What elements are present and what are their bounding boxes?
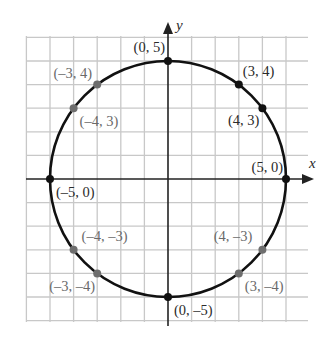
point-label-p-m5-0: (–5, 0) (56, 184, 95, 201)
point-marker-p-m3-4 (93, 81, 101, 89)
point-label-p-0-m5: (0, –5) (174, 302, 213, 319)
point-marker-p-5-0 (282, 175, 290, 183)
point-marker-p-3-m4 (235, 269, 243, 277)
point-marker-p-4-m3 (258, 246, 266, 254)
point-label-p-4-m3: (4, –3) (214, 228, 253, 245)
point-label-p-4-3: (4, 3) (228, 112, 260, 129)
point-marker-p-4-3 (258, 104, 266, 112)
plot-area: x y (0, 5)(3, 4)(4, 3)(5, 0)(–5, 0)(0, –… (0, 0, 332, 344)
point-label-p-5-0: (5, 0) (252, 159, 284, 176)
y-axis-arrow-icon (163, 22, 173, 34)
point-marker-p-m3-m4 (93, 269, 101, 277)
point-marker-p-m5-0 (46, 175, 54, 183)
point-marker-p-m4-m3 (70, 246, 78, 254)
point-marker-p-0-m5 (164, 293, 172, 301)
point-label-p-3-m4: (3, –4) (245, 278, 284, 295)
point-label-p-3-4: (3, 4) (243, 63, 275, 80)
unit-circle-diagram: x y (0, 5)(3, 4)(4, 3)(5, 0)(–5, 0)(0, –… (0, 0, 332, 344)
point-label-p-m3-4: (–3, 4) (54, 65, 93, 82)
point-label-p-0-5: (0, 5) (134, 39, 166, 56)
point-marker-p-m4-3 (70, 104, 78, 112)
x-axis-arrow-icon (302, 174, 314, 184)
y-axis-label: y (174, 17, 183, 33)
point-marker-p-0-5 (164, 57, 172, 65)
point-label-p-m3-m4: (–3, –4) (49, 278, 95, 295)
point-label-p-m4-m3: (–4, –3) (82, 228, 128, 245)
point-label-p-m4-3: (–4, 3) (80, 113, 119, 130)
x-axis-label: x (308, 155, 316, 171)
point-marker-p-3-4 (235, 81, 243, 89)
